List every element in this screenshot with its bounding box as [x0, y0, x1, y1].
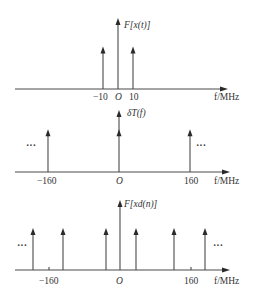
axis-arrow-icon — [222, 268, 230, 273]
impulse-arrow-icon — [116, 18, 121, 25]
impulse-arrow-icon — [45, 129, 50, 136]
impulse-arrow-icon — [31, 228, 36, 235]
axis-arrow-icon — [220, 87, 228, 92]
impulse-arrow-icon — [61, 228, 66, 235]
tick-label-10: 10 — [129, 92, 139, 102]
spectrum-figure: F[x(t)] −10 O 10 f/MHz δT(f) ··· ··· −16… — [0, 0, 260, 302]
ellipsis-left: ··· — [17, 240, 27, 251]
impulse-arrow-icon — [118, 200, 123, 207]
tick-label-160: 160 — [184, 176, 199, 186]
impulse-arrow-icon — [188, 129, 193, 136]
panel-title: δT(f) — [127, 108, 146, 119]
tick-label-origin: O — [116, 176, 123, 186]
panel-title: F[x(t)] — [123, 20, 151, 31]
tick-label-neg160: −160 — [39, 276, 59, 286]
impulse-arrow-icon — [104, 228, 109, 235]
tick-label-origin: O — [116, 276, 123, 286]
impulse-arrow-icon — [172, 228, 177, 235]
axis-unit-label: f/MHz — [214, 276, 239, 286]
tick-label-160: 160 — [184, 276, 199, 286]
impulse-arrow-icon — [203, 228, 208, 235]
axis-unit-label: f/MHz — [214, 176, 239, 186]
axis-unit-label: f/MHz — [214, 92, 239, 102]
ellipsis-right: ··· — [213, 240, 223, 251]
impulse-arrow-icon — [131, 46, 136, 53]
impulse-arrow-icon — [117, 110, 122, 117]
ellipsis-left: ··· — [26, 140, 36, 151]
tick-label-neg10: −10 — [93, 92, 108, 102]
ellipsis-right: ··· — [196, 140, 206, 151]
tick-label-origin: O — [115, 92, 122, 102]
impulse-arrow-icon — [134, 228, 139, 235]
panel-impulse-train: δT(f) ··· ··· −160 O 160 f/MHz — [15, 108, 239, 186]
panel-spectrum-x: F[x(t)] −10 O 10 f/MHz — [15, 18, 239, 102]
axis-arrow-icon — [222, 170, 230, 175]
impulse-arrow-icon — [101, 46, 106, 53]
tick-label-neg160: −160 — [37, 176, 57, 186]
panel-title: F[xd(n)] — [123, 199, 158, 210]
inner-arrow-icon — [117, 129, 122, 136]
panel-spectrum-sampled: F[xd(n)] ··· ··· −160 O 160 f/MHz — [15, 199, 239, 286]
